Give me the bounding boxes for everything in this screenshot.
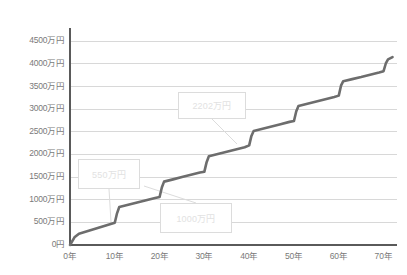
- x-tick-label-20: 20年: [140, 252, 180, 261]
- y-tick-label-3000: 3000万円: [29, 104, 65, 113]
- y-tick-label-2000: 2000万円: [29, 149, 65, 158]
- y-tick-label-1000: 1000万円: [29, 195, 65, 204]
- y-tick-label-500: 500万円: [34, 217, 65, 226]
- annotation-2202-box: 2202万円: [178, 92, 246, 119]
- y-tick-label-0: 0円: [52, 240, 65, 249]
- savings-growth-chart: 0円500万円1000万円1500万円2000万円2500万円3000万円350…: [0, 0, 407, 275]
- y-tick-label-1500: 1500万円: [29, 172, 65, 181]
- x-tick-label-70: 70年: [364, 252, 404, 261]
- y-tick-label-3500: 3500万円: [29, 82, 65, 91]
- x-tick-label-0: 0年: [50, 252, 90, 261]
- annotation-550-label: 550万円: [92, 168, 126, 181]
- x-tick-label-30: 30年: [184, 252, 224, 261]
- annotation-1000-box: 1000万円: [160, 203, 232, 233]
- x-tick-label-50: 50年: [274, 252, 314, 261]
- x-tick-label-10: 10年: [95, 252, 135, 261]
- annotation-1000-leader-line: [144, 186, 196, 203]
- axes: [70, 28, 397, 245]
- gridlines: [70, 41, 397, 222]
- y-tick-label-4000: 4000万円: [29, 59, 65, 68]
- x-tick-label-60: 60年: [319, 252, 359, 261]
- annotation-550-box: 550万円: [78, 159, 140, 189]
- x-tick-label-40: 40年: [229, 252, 269, 261]
- annotation-2202-label: 2202万円: [192, 99, 231, 112]
- y-tick-label-2500: 2500万円: [29, 127, 65, 136]
- y-tick-label-4500: 4500万円: [29, 36, 65, 45]
- annotation-1000-label: 1000万円: [176, 212, 215, 225]
- annotation-550-leader-line: [109, 189, 111, 222]
